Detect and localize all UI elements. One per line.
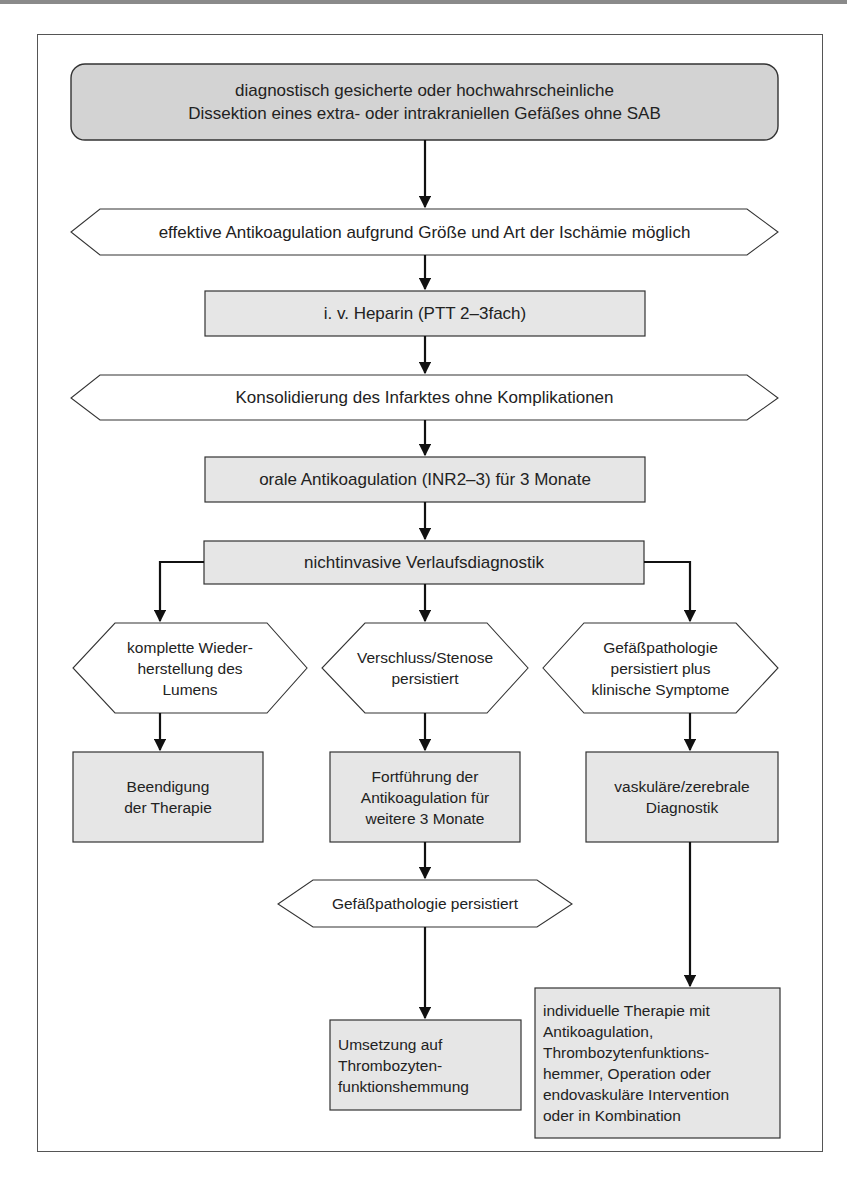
verlaufsdiagnostik-label: nichtinvasive Verlaufsdiagnostik [204, 541, 644, 584]
individuelle-therapie-label: individuelle Therapie mit Antikoagulatio… [535, 988, 780, 1138]
beendigung-label: Beendigung der Therapie [73, 752, 263, 842]
decision-persistiert-label: Gefäßpathologie persistiert [278, 880, 572, 927]
start-node-label: diagnostisch gesicherte oder hochwahrsch… [71, 64, 778, 140]
decision-konsolidierung-label: Konsolidierung des Infarktes ohne Kompli… [71, 375, 778, 420]
decision-symptome-label: Gefäßpathologie persistiert plus klinisc… [543, 623, 778, 713]
oral-anticoag-label: orale Antikoagulation (INR2–3) für 3 Mon… [205, 457, 645, 502]
heparin-label: i. v. Heparin (PTT 2–3fach) [205, 291, 645, 336]
edge-verlauf-to-symptome [644, 562, 690, 621]
fortfuehrung-label: Fortführung der Antikoagulation für weit… [330, 752, 520, 842]
vaskulaere-diagnostik-label: vaskuläre/zerebrale Diagnostik [586, 752, 778, 842]
decision-anticoag-label: effektive Antikoagulation aufgrund Größe… [71, 209, 778, 255]
decision-lumen-label: komplette Wieder- herstellung des Lumens [73, 623, 307, 713]
decision-stenose-label: Verschluss/Stenose persistiert [322, 623, 528, 713]
edge-verlauf-to-lumen [160, 562, 204, 621]
umsetzung-label: Umsetzung auf Thrombozyten- funktionshem… [330, 1020, 521, 1110]
